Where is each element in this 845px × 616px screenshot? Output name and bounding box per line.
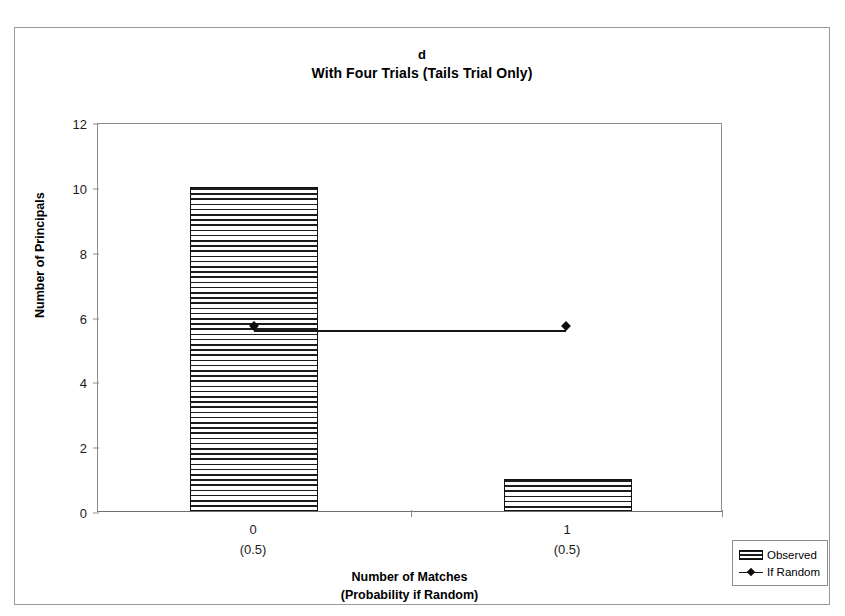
chart-page: d With Four Trials (Tails Trial Only) Nu… (0, 0, 845, 616)
chart-legend: Observed If Random (732, 540, 828, 586)
y-tick-label: 2 (80, 441, 98, 456)
bar-observed-1[interactable] (504, 479, 632, 511)
x-axis-tick (411, 510, 412, 517)
y-tick-label: 6 (80, 311, 98, 326)
chart-title: With Four Trials (Tails Trial Only) (15, 64, 829, 83)
x-category-label-0: 0 (0.5) (240, 520, 267, 560)
x-category-probability: (0.5) (240, 540, 267, 560)
y-tick-label: 0 (80, 506, 98, 521)
y-tick-label: 8 (80, 246, 98, 261)
x-axis-title-main: Number of Matches (97, 568, 722, 586)
legend-label-if-random: If Random (767, 566, 820, 578)
x-axis-title: Number of Matches (Probability if Random… (97, 568, 722, 604)
plot-area: 12 10 8 6 4 2 0 (97, 123, 722, 512)
legend-label-observed: Observed (767, 549, 817, 561)
chart-title-block: d With Four Trials (Tails Trial Only) (15, 46, 829, 82)
y-tick-label: 4 (80, 376, 98, 391)
x-axis-title-sub: (Probability if Random) (97, 586, 722, 604)
panel-letter: d (15, 46, 829, 64)
hatched-bar-swatch-icon (739, 550, 763, 560)
line-diamond-swatch-icon (739, 567, 763, 577)
series-line-if-random (254, 330, 566, 332)
legend-item-if-random[interactable]: If Random (739, 563, 823, 580)
x-category-value: 0 (249, 522, 256, 537)
figure-frame: d With Four Trials (Tails Trial Only) Nu… (14, 27, 830, 605)
legend-item-observed[interactable]: Observed (739, 546, 823, 563)
y-tick-label: 10 (73, 181, 98, 196)
y-tick-label: 12 (73, 117, 98, 132)
x-axis-tick (722, 510, 723, 517)
x-category-probability: (0.5) (554, 540, 581, 560)
bar-observed-0[interactable] (190, 187, 318, 511)
y-axis-title: Number of Principals (33, 192, 47, 318)
x-category-label-1: 1 (0.5) (554, 520, 581, 560)
x-category-value: 1 (563, 522, 570, 537)
